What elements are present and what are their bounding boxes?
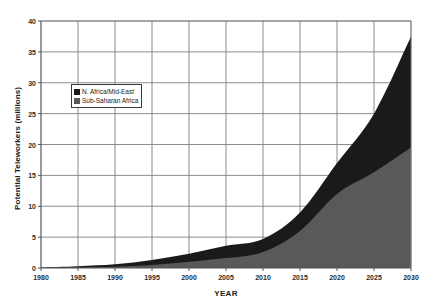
chart-container: Potential Teleworkers (millions) 0510152…: [0, 0, 434, 308]
legend-swatch-icon: [74, 89, 80, 95]
legend-item: N. Africa/Mid-East: [74, 87, 138, 96]
legend-swatch-icon: [74, 98, 80, 104]
legend-label: Sub-Saharan Africa: [82, 96, 138, 105]
legend-label: N. Africa/Mid-East: [82, 87, 134, 96]
legend-item: Sub-Saharan Africa: [74, 96, 138, 105]
plot-area: [0, 0, 434, 308]
legend: N. Africa/Mid-EastSub-Saharan Africa: [71, 84, 142, 108]
